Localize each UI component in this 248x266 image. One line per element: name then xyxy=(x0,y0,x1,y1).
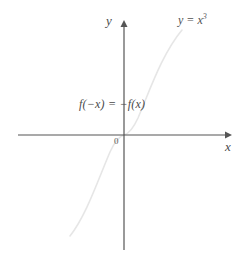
equation-base: y = x xyxy=(178,13,203,27)
y-axis-label: y xyxy=(106,14,112,27)
equation-exponent: 3 xyxy=(203,12,207,21)
cubic-curve xyxy=(70,30,182,236)
origin-label: 0 xyxy=(114,137,119,146)
cubic-function-figure: y x 0 y = x3 f(−x) = −f(x) xyxy=(0,0,248,266)
coordinate-plot xyxy=(0,0,248,266)
x-axis-label: x xyxy=(225,140,231,153)
curve-equation-label: y = x3 xyxy=(178,13,207,26)
odd-symmetry-annotation: f(−x) = −f(x) xyxy=(79,98,145,110)
